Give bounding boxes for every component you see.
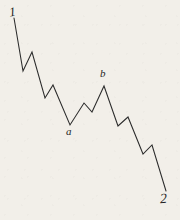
zigzag-wave-path bbox=[14, 18, 166, 191]
wave-chart-svg bbox=[0, 0, 180, 220]
elliott-wave-figure: 1 a b 2 bbox=[0, 0, 180, 220]
label-point-2: 2 bbox=[160, 192, 168, 206]
label-wave-b: b bbox=[100, 68, 106, 79]
label-wave-a: a bbox=[66, 126, 72, 137]
